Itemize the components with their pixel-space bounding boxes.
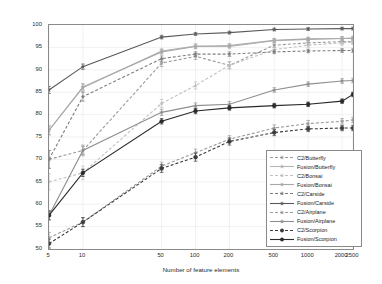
legend-label: C2/Airplane (295, 209, 326, 215)
legend-label: Fusion/Bonsai (295, 182, 332, 188)
y-tick-label: 50 (12, 245, 42, 251)
chart-figure: Performance (Equilibrium point) Number o… (0, 0, 382, 284)
legend-item: C2/Butterfly (269, 153, 359, 162)
y-tick-label: 80 (12, 110, 42, 116)
legend-item: Fusion/Airplane (269, 217, 359, 226)
legend-label: C2/Scorpion (295, 227, 327, 233)
y-tick-label: 55 (12, 222, 42, 228)
legend-item: Fusion/Bonsai (269, 180, 359, 189)
legend-symbol (269, 226, 295, 235)
legend-symbol (269, 235, 295, 244)
x-tick-label: 500 (261, 252, 285, 258)
legend-label: C2/Carside (295, 191, 325, 197)
legend-symbol (269, 171, 295, 180)
legend-item: Fusion/Scorpion (269, 235, 359, 244)
legend-symbol (269, 162, 295, 171)
legend-item: C2/Airplane (269, 208, 359, 217)
legend-symbol (269, 180, 295, 189)
legend-symbol (269, 153, 295, 162)
y-tick-label: 70 (12, 155, 42, 161)
legend-symbol (269, 189, 295, 198)
y-tick-label: 100 (12, 21, 42, 27)
x-tick-label: 5 (36, 252, 60, 258)
y-tick-label: 95 (12, 43, 42, 49)
y-tick-label: 90 (12, 66, 42, 72)
legend-item: C2/Scorpion (269, 226, 359, 235)
x-tick-label: 100 (183, 252, 207, 258)
legend-label: C2/Bonsai (295, 173, 322, 179)
y-tick-label: 85 (12, 88, 42, 94)
x-tick-label: 2500 (340, 252, 364, 258)
legend-label: Fusion/Scorpion (295, 236, 337, 242)
legend-item: C2/Bonsai (269, 171, 359, 180)
legend-symbol (269, 217, 295, 226)
x-tick-label: 50 (149, 252, 173, 258)
legend-label: Fusion/Carside (295, 200, 334, 206)
legend-item: Fusion/Carside (269, 198, 359, 207)
y-tick-label: 75 (12, 133, 42, 139)
x-tick-label: 200 (216, 252, 240, 258)
x-tick-label: 1000 (295, 252, 319, 258)
legend-label: Fusion/Airplane (295, 218, 335, 224)
legend-symbol (269, 199, 295, 208)
legend-label: C2/Butterfly (295, 155, 326, 161)
legend-label: Fusion/Butterfly (295, 164, 335, 170)
chart-legend: C2/ButterflyFusion/ButterflyC2/BonsaiFus… (266, 150, 362, 247)
y-tick-label: 60 (12, 200, 42, 206)
legend-symbol (269, 208, 295, 217)
x-axis-label: Number of feature elements (48, 266, 354, 273)
legend-item: C2/Carside (269, 189, 359, 198)
legend-item: Fusion/Butterfly (269, 162, 359, 171)
x-tick-label: 10 (70, 252, 94, 258)
y-tick-label: 65 (12, 178, 42, 184)
